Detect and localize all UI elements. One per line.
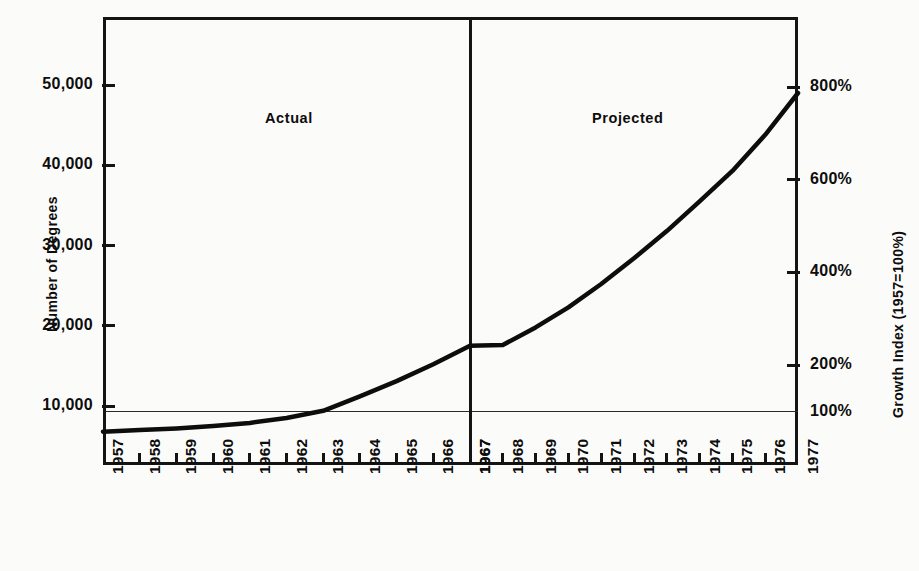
left-axis-tick-mark [102, 405, 115, 408]
x-axis-tick-mark [567, 453, 570, 465]
right-axis-tick-mark [787, 364, 800, 367]
x-axis-tick-mark [534, 453, 537, 465]
x-axis-tick-label: 1958 [146, 439, 164, 474]
x-axis-tick-mark [285, 453, 288, 465]
right-axis-tick-label: 600% [810, 170, 852, 188]
right-axis-tick-label: 100% [810, 402, 852, 420]
right-axis-tick-mark [787, 178, 800, 181]
x-axis-tick-label: 1964 [366, 439, 384, 474]
x-axis-tick-label: 1972 [640, 439, 658, 474]
left-axis-tick-label: 50,000 [7, 75, 93, 93]
left-axis-tick-label: 40,000 [7, 155, 93, 173]
x-axis-tick-mark [698, 453, 701, 465]
actual-projected-divider [469, 17, 472, 465]
x-axis-tick-mark [501, 453, 504, 465]
left-axis-tick-label: 30,000 [7, 236, 93, 254]
x-axis-tick-label: 1977 [804, 439, 822, 474]
right-axis-title: Growth Index (1957=100%) [890, 231, 906, 418]
projected-section-label: Projected [592, 110, 663, 126]
x-axis-tick-mark [322, 453, 325, 465]
left-axis-tick-label: 20,000 [7, 316, 93, 334]
x-axis-tick-label: 1962 [293, 439, 311, 474]
x-axis-tick-label: 1970 [574, 439, 592, 474]
x-axis-tick-mark [600, 453, 603, 465]
x-axis-tick-label: 1975 [738, 439, 756, 474]
x-axis-tick-mark [432, 453, 435, 465]
x-axis-tick-label: 1967 [476, 439, 494, 474]
x-axis-tick-label: 1971 [607, 439, 625, 474]
x-axis-tick-mark [395, 453, 398, 465]
left-axis-tick-label: 10,000 [7, 396, 93, 414]
x-axis-tick-label: 1974 [706, 439, 724, 474]
x-axis-tick-mark [764, 453, 767, 465]
x-axis-tick-mark [633, 453, 636, 465]
x-axis-tick-label: 1963 [329, 439, 347, 474]
x-axis-tick-mark [248, 453, 251, 465]
x-axis-tick-label: 1957 [109, 439, 127, 474]
x-axis-tick-mark [175, 453, 178, 465]
chart-page: Actual Projected Number of Degrees Growt… [0, 0, 919, 571]
actual-section-label: Actual [265, 110, 313, 126]
x-axis-tick-label: 1976 [771, 439, 789, 474]
x-axis-tick-label: 1966 [439, 439, 457, 474]
x-axis-tick-label: 1961 [256, 439, 274, 474]
right-axis-tick-label: 200% [810, 355, 852, 373]
x-axis-tick-label: 1969 [542, 439, 560, 474]
x-axis-tick-mark [731, 453, 734, 465]
left-axis-tick-mark [102, 324, 115, 327]
left-axis-title: Number of Degrees [44, 196, 60, 332]
left-axis-tick-mark [102, 84, 115, 87]
x-axis-tick-label: 1960 [219, 439, 237, 474]
x-axis-tick-mark [665, 453, 668, 465]
x-axis-tick-mark [212, 453, 215, 465]
x-axis-tick-label: 1973 [673, 439, 691, 474]
right-axis-tick-mark [787, 86, 800, 89]
x-axis-tick-mark [138, 453, 141, 465]
right-axis-tick-label: 400% [810, 262, 852, 280]
x-axis-tick-mark [358, 453, 361, 465]
left-axis-tick-mark [102, 164, 115, 167]
plot-frame [103, 17, 798, 465]
left-axis-tick-mark [102, 244, 115, 247]
baseline-100-percent-rule [106, 411, 798, 412]
x-axis-tick-label: 1959 [182, 439, 200, 474]
x-axis-tick-label: 1965 [403, 439, 421, 474]
x-axis-tick-label: 1968 [509, 439, 527, 474]
right-axis-tick-mark [787, 271, 800, 274]
right-axis-tick-label: 800% [810, 77, 852, 95]
